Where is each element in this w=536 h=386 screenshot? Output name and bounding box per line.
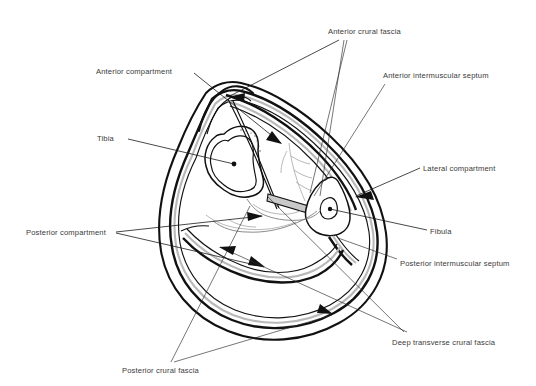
- deep-posterior-muscle-outlines: [206, 199, 321, 232]
- anterior-muscle-vein-2: [291, 156, 310, 164]
- posterior-fascia-anchor-line: [181, 226, 209, 231]
- leg-cross-section-diagram: Anterior compartment Tibia Anterior crur…: [0, 0, 536, 386]
- label-posterior-intermuscular-septum: Posterior intermuscular septum: [400, 259, 510, 268]
- flexor-muscle-outline: [213, 211, 317, 232]
- deep-transverse-crural-fascia-structure: [183, 229, 343, 283]
- anterior-compartment-muscle-markings: [281, 143, 312, 201]
- label-posterior-crural-fascia: Posterior crural fascia: [122, 366, 200, 375]
- label-tibia: Tibia: [97, 134, 115, 143]
- deep-muscle-detail-2: [228, 219, 256, 227]
- leader-lateral-compartment: [355, 168, 420, 200]
- leader-anterior-intermuscular-septum: [314, 84, 385, 196]
- posterior-fascia-anchor: [181, 226, 209, 231]
- anterior-muscle-vein-5: [281, 151, 287, 173]
- leg-outline-group: [159, 82, 387, 340]
- anterior-muscle-vein-3: [294, 170, 312, 178]
- label-fibula: Fibula: [430, 227, 452, 236]
- label-posterior-compartment: Posterior compartment: [26, 228, 107, 237]
- label-anterior-intermuscular-septum: Anterior intermuscular septum: [383, 71, 489, 80]
- posterior-intermuscular-septum-structure: [329, 235, 359, 265]
- label-deep-transverse-crural-fascia: Deep transverse crural fascia: [392, 338, 496, 347]
- label-anterior-crural-fascia: Anterior crural fascia: [328, 27, 402, 36]
- label-lateral-compartment: Lateral compartment: [423, 164, 496, 173]
- label-anterior-compartment: Anterior compartment: [96, 67, 173, 76]
